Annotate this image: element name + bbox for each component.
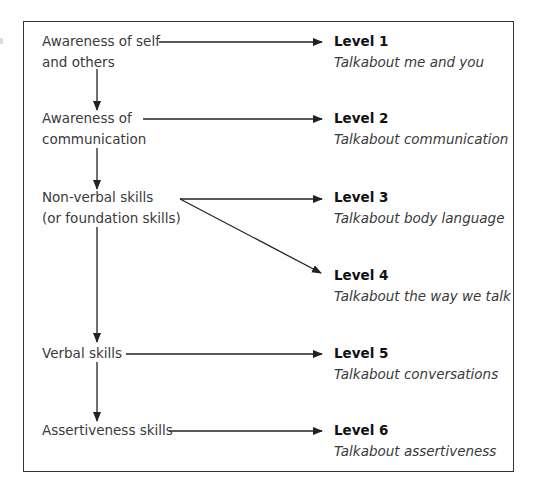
stage-label-line: (or foundation skills) (42, 208, 181, 229)
level-4: Level 4 Talkabout the way we talk (334, 265, 511, 307)
stage-nonverbal-skills: Non-verbal skills (or foundation skills) (42, 187, 181, 229)
stage-verbal-skills: Verbal skills (42, 343, 122, 364)
level-1: Level 1 Talkabout me and you (334, 31, 484, 73)
level-5: Level 5 Talkabout conversations (334, 343, 498, 385)
stage-label-line: Verbal skills (42, 343, 122, 364)
level-subtitle: Talkabout conversations (334, 364, 498, 385)
level-2: Level 2 Talkabout communication (334, 108, 508, 150)
level-title: Level 2 (334, 108, 508, 129)
stage-label-line: Assertiveness skills (42, 420, 173, 441)
stage-label-line: communication (42, 129, 146, 150)
arrow-stage3-level4 (180, 199, 321, 273)
level-title: Level 5 (334, 343, 498, 364)
stage-label-line: and others (42, 52, 160, 73)
level-3: Level 3 Talkabout body language (334, 187, 504, 229)
level-title: Level 4 (334, 265, 511, 286)
stage-communication-awareness: Awareness of communication (42, 108, 146, 150)
stage-assertiveness-skills: Assertiveness skills (42, 420, 173, 441)
level-title: Level 6 (334, 420, 496, 441)
level-title: Level 3 (334, 187, 504, 208)
stage-label-line: Awareness of (42, 108, 146, 129)
level-title: Level 1 (334, 31, 484, 52)
level-subtitle: Talkabout assertiveness (334, 441, 496, 462)
level-6: Level 6 Talkabout assertiveness (334, 420, 496, 462)
level-subtitle: Talkabout communication (334, 129, 508, 150)
level-subtitle: Talkabout the way we talk (334, 286, 511, 307)
stage-self-awareness: Awareness of self and others (42, 31, 160, 73)
level-subtitle: Talkabout me and you (334, 52, 484, 73)
stage-label-line: Non-verbal skills (42, 187, 181, 208)
level-subtitle: Talkabout body language (334, 208, 504, 229)
stage-label-line: Awareness of self (42, 31, 160, 52)
